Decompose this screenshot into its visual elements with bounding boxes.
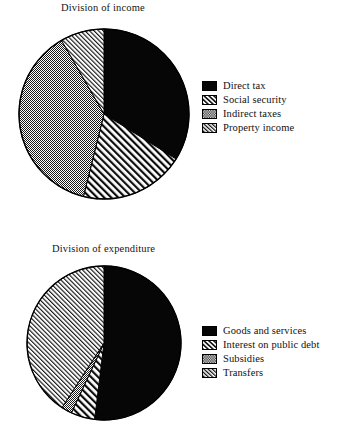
swatch-diagonal-hatch-fine-icon [202, 123, 217, 133]
legend-item-subsidies: Subsidies [202, 352, 319, 365]
legend-item-social-security: Social security [202, 93, 294, 106]
legend-item-transfers: Transfers [202, 366, 319, 379]
legend-income: Direct tax Social security [202, 79, 294, 134]
legend-item-direct-tax: Direct tax [202, 79, 294, 92]
legend-expenditure: Goods and services Interest on public de… [202, 324, 319, 379]
swatch-diagonal-hatch-fine-icon [202, 368, 217, 378]
figure-canvas: Division of income [0, 0, 348, 432]
legend-label-interest-on-public-debt: Interest on public debt [223, 339, 319, 351]
swatch-stipple-gray-icon [202, 109, 217, 119]
swatch-diagonal-hatch-coarse-icon [202, 95, 217, 105]
legend-label-property-income: Property income [223, 122, 294, 134]
swatch-solid-black-icon [202, 81, 217, 91]
legend-item-property-income: Property income [202, 121, 294, 134]
legend-label-goods-and-services: Goods and services [223, 325, 306, 337]
legend-item-indirect-taxes: Indirect taxes [202, 107, 294, 120]
pie-chart-expenditure [26, 264, 184, 432]
swatch-stipple-gray-icon [202, 354, 217, 364]
legend-label-indirect-taxes: Indirect taxes [223, 108, 281, 120]
legend-label-direct-tax: Direct tax [223, 80, 266, 92]
legend-label-subsidies: Subsidies [223, 353, 264, 365]
legend-item-goods-and-services: Goods and services [202, 324, 319, 337]
legend-label-transfers: Transfers [223, 367, 263, 379]
chart-title-expenditure: Division of expenditure [52, 243, 155, 254]
swatch-solid-black-icon [202, 326, 217, 336]
legend-item-interest-on-public-debt: Interest on public debt [202, 338, 319, 351]
pie-slice-goods-and-services [95, 266, 181, 420]
legend-label-social-security: Social security [223, 94, 287, 106]
swatch-diagonal-hatch-coarse-icon [202, 340, 217, 350]
pie-chart-income [17, 27, 191, 201]
chart-title-income: Division of income [61, 2, 145, 13]
